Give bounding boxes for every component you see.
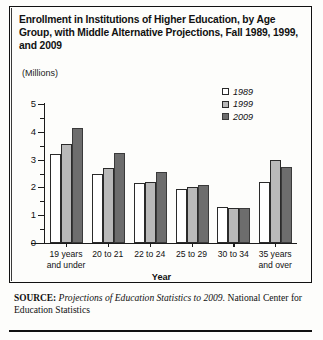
x-axis-line (31, 243, 297, 244)
bar-1989-30-to-34 (217, 207, 228, 243)
bar-group (259, 160, 292, 243)
x-tick (66, 243, 67, 247)
x-tick (192, 243, 193, 247)
plot-area (44, 104, 295, 243)
x-tick (150, 243, 151, 247)
category-label: 35 yearsand over (249, 249, 301, 270)
bar-2009-19-years-and-under (72, 128, 83, 243)
source-title: Projections of Education Statistics to 2… (59, 292, 225, 303)
legend-swatch-icon (222, 101, 229, 108)
bar-2009-22-to-24 (156, 172, 167, 243)
bar-1999-35-years-and-over (270, 160, 281, 243)
bar-1999-20-to-21 (103, 168, 114, 243)
legend-label: 1999 (233, 99, 253, 109)
bar-group (217, 207, 250, 243)
legend-swatch-icon (222, 113, 229, 120)
chart-page: Enrollment in Institutions of Higher Edu… (0, 0, 323, 340)
x-axis-title: Year (0, 272, 323, 282)
y-tick-label: 5 (22, 98, 36, 109)
bar-group (134, 172, 167, 243)
bar-group (176, 185, 209, 243)
x-tick (275, 243, 276, 247)
bottom-rule (9, 330, 312, 332)
y-tick-label: 1 (22, 209, 36, 220)
x-tick (233, 243, 234, 247)
bar-1999-22-to-24 (145, 182, 156, 243)
legend-item-1999: 1999 (222, 99, 253, 110)
y-tick-label: 0 (22, 237, 36, 248)
bar-1999-19-years-and-under (61, 144, 72, 243)
y-tick-label: 4 (22, 126, 36, 137)
y-tick-major (38, 243, 44, 244)
chart-legend: 198919992009 (222, 86, 253, 124)
y-tick-label: 3 (22, 154, 36, 165)
x-tick (108, 243, 109, 247)
bar-2009-20-to-21 (114, 153, 125, 243)
legend-item-2009: 2009 (222, 111, 253, 122)
bar-2009-35-years-and-over (281, 167, 292, 243)
source-label: SOURCE: (14, 293, 56, 303)
legend-item-1989: 1989 (222, 86, 253, 97)
y-axis-tick-labels: 012345 (16, 0, 36, 340)
bar-group (92, 153, 125, 243)
bar-group (50, 128, 83, 243)
chart-title: Enrollment in Institutions of Higher Edu… (19, 13, 307, 53)
y-tick-label: 2 (22, 181, 36, 192)
bar-1989-19-years-and-under (50, 154, 61, 243)
source-note: SOURCE: Projections of Education Statist… (14, 292, 314, 317)
bar-1989-25-to-29 (176, 189, 187, 243)
bar-2009-25-to-29 (198, 185, 209, 243)
bar-1999-30-to-34 (228, 208, 239, 243)
bar-1989-20-to-21 (92, 174, 103, 244)
legend-swatch-icon (222, 88, 229, 95)
bar-2009-30-to-34 (239, 208, 250, 243)
legend-label: 1989 (233, 87, 253, 97)
legend-label: 2009 (233, 112, 253, 122)
bar-1999-25-to-29 (187, 187, 198, 243)
bar-1989-35-years-and-over (259, 182, 270, 243)
bar-1989-22-to-24 (134, 183, 145, 243)
